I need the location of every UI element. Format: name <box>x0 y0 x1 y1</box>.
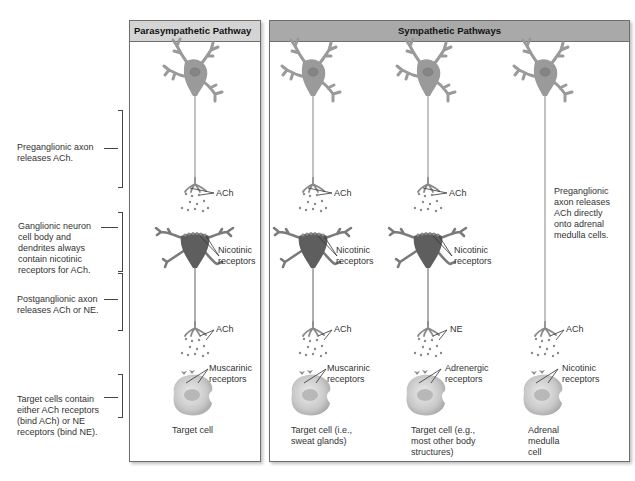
col1-ganglion-receptor: Nicotinic receptors <box>218 245 262 267</box>
col4-target-receptor: Nicotinic receptors <box>562 363 614 385</box>
col4-direct-note: Preganglionic axon releases ACh directly… <box>554 186 622 241</box>
col3-pre-neurotransmitter: ACh <box>449 188 467 199</box>
col1-target-receptor: Muscarinic receptors <box>209 363 261 385</box>
parasympathetic-diagram <box>0 0 635 481</box>
col3-ganglion-receptor: Nicotinic receptors <box>454 245 498 267</box>
col1-target-caption: Target cell <box>172 425 252 436</box>
col4-post-neurotransmitter: ACh <box>566 324 584 335</box>
col1-pre-neurotransmitter: ACh <box>216 188 234 199</box>
col3-target-receptor: Adrenergic receptors <box>445 363 497 385</box>
col3-post-neurotransmitter: NE <box>450 324 463 335</box>
col3-target-caption: Target cell (e.g., most other body struc… <box>411 425 493 458</box>
col1-post-neurotransmitter: ACh <box>216 324 234 335</box>
col2-ganglion-receptor: Nicotinic receptors <box>336 245 380 267</box>
col2-target-receptor: Muscarinic receptors <box>327 363 379 385</box>
col2-post-neurotransmitter: ACh <box>334 324 352 335</box>
col4-target-caption: Adrenal medulla cell <box>528 425 568 458</box>
col2-pre-neurotransmitter: ACh <box>334 188 352 199</box>
col2-target-caption: Target cell (i.e., sweat glands) <box>291 425 376 447</box>
